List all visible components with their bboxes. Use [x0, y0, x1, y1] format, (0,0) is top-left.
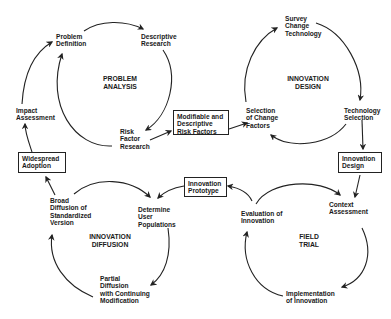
arrow-implementation-to-evaluation: [245, 232, 283, 296]
node-selection-of-change-factors: Selectionof ChangeFactors: [246, 107, 278, 129]
node-partial-diffusion: PartialDiffusionwith ContinuingModificat…: [100, 275, 150, 305]
arrow-adoption-to-impact: [25, 124, 32, 152]
node-problem-definition: ProblemDefinition: [56, 33, 86, 48]
box-modifiable-descriptive-risk-factors: Modifiable andDescriptiveRisk Factors: [173, 110, 229, 135]
node-survey-change-technology: SurveyChangeTechnology: [285, 15, 322, 37]
diagram-canvas: PROBLEMANALYSIS ProblemDefinition Descri…: [0, 0, 391, 319]
box-innovation-prototype: InnovationPrototype: [184, 177, 227, 197]
node-determine-user-populations: DetermineUserPopulations: [138, 206, 176, 228]
cycle-title-innovation-diffusion: INNOVATIONDIFFUSION: [85, 233, 135, 248]
arrow-evaluation-to-context: [256, 184, 340, 204]
arrow-descriptive-to-risk: [146, 50, 171, 130]
node-technology-selection: TechnologySelection: [344, 107, 381, 122]
cycle-title-problem-analysis: PROBLEMANALYSIS: [95, 75, 145, 90]
arrow-risk-to-problem: [57, 54, 112, 146]
arrow-context-to-implementation: [342, 228, 368, 287]
arrow-box-to-selection: [229, 123, 247, 129]
arrow-techsel-to-designbox: [362, 120, 363, 149]
arrow-problem-to-descriptive: [84, 22, 143, 31]
node-implementation-of-innovation: Implementationof Innovation: [286, 290, 335, 305]
node-risk-factor-research: RiskFactorResearch: [120, 128, 150, 150]
arrow-designbox-to-context: [355, 175, 360, 197]
node-descriptive-research: DescriptiveResearch: [141, 33, 177, 48]
arrow-prototype-to-determine: [158, 186, 184, 198]
box-innovation-design: InnovationDesign: [338, 152, 382, 173]
node-broad-diffusion: BroadDiffusion ofStandardizedVersion: [50, 197, 91, 227]
node-evaluation-of-innovation: Evaluation ofInnovation: [241, 210, 282, 225]
arrow-evaluation-to-prototype: [228, 186, 252, 201]
arrow-selection-to-survey: [245, 28, 277, 102]
node-context-assessment: ContextAssessment: [329, 201, 368, 216]
arrow-impact-to-problem: [22, 42, 52, 104]
label-impact-assessment: ImpactAssessment: [16, 107, 55, 122]
arrow-broad-to-determine: [74, 182, 150, 197]
cycle-title-field-trial: FIELDTRIAL: [289, 233, 329, 248]
arrow-techsel-to-selection: [271, 124, 346, 144]
cycle-title-innovation-design: INNOVATIONDESIGN: [283, 75, 333, 90]
box-widespread-adoption: WidespreadAdoption: [18, 152, 66, 173]
arrow-risk-to-box: [150, 131, 171, 140]
arrow-determine-to-partial: [151, 228, 169, 285]
arrow-broad-to-adoption: [46, 177, 55, 195]
